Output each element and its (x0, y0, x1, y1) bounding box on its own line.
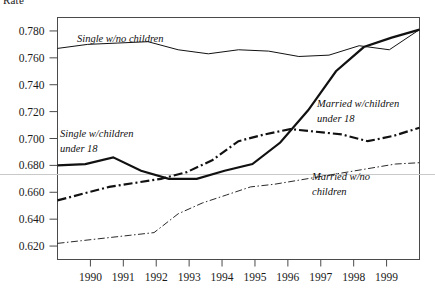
annotation-single-with-children-line2: under 18 (60, 143, 98, 154)
x-tick-label: 1992 (145, 271, 168, 283)
x-tick-label: 1990 (79, 271, 102, 283)
annotation-married-no-children-line2: children (312, 186, 347, 197)
x-axis-ticks: 1990199119921993199419951996199719981999 (79, 260, 398, 283)
x-tick-label: 1999 (375, 271, 398, 283)
y-tick-label: 0.620 (19, 240, 45, 252)
y-tick-label: 0.640 (19, 213, 45, 225)
annotation-married-no-children: Married w/no children (311, 171, 370, 197)
x-tick-label: 1994 (211, 271, 234, 283)
x-tick-label: 1998 (342, 271, 365, 283)
annotation-married-with-children-line2: under 18 (317, 113, 355, 124)
y-axis-ticks: 0.7800.7600.7400.7200.7000.6800.6600.640… (19, 25, 58, 252)
y-tick-label: 0.780 (19, 25, 45, 37)
annotation-single-with-children: Single w/children under 18 (60, 128, 133, 154)
y-tick-label: 0.720 (19, 106, 45, 118)
annotation-single-no-children: Single w/no children (77, 33, 164, 44)
annotation-married-with-children-line1: Married w/children (316, 98, 399, 109)
x-tick-label: 1995 (243, 271, 266, 283)
y-tick-label: 0.740 (19, 79, 45, 91)
annotation-married-no-children-line1: Married w/no (311, 171, 370, 182)
x-tick-label: 1993 (178, 271, 201, 283)
x-tick-label: 1997 (309, 271, 332, 283)
x-tick-label: 1996 (276, 271, 299, 283)
y-tick-label: 0.660 (19, 186, 45, 198)
annotation-single-no-children-label: Single w/no children (77, 33, 164, 44)
x-tick-label: 1991 (112, 271, 135, 283)
line-chart: 0.7800.7600.7400.7200.7000.6800.6600.640… (0, 0, 435, 292)
y-tick-label: 0.700 (19, 133, 45, 145)
y-tick-label: 0.680 (19, 159, 45, 171)
y-tick-label: 0.760 (19, 52, 45, 64)
annotation-single-with-children-line1: Single w/children (60, 128, 133, 139)
annotation-married-with-children: Married w/children under 18 (316, 98, 399, 124)
chart-container: Rate 0.7800.7600.7400.7200.7000.6800.660… (0, 0, 435, 292)
